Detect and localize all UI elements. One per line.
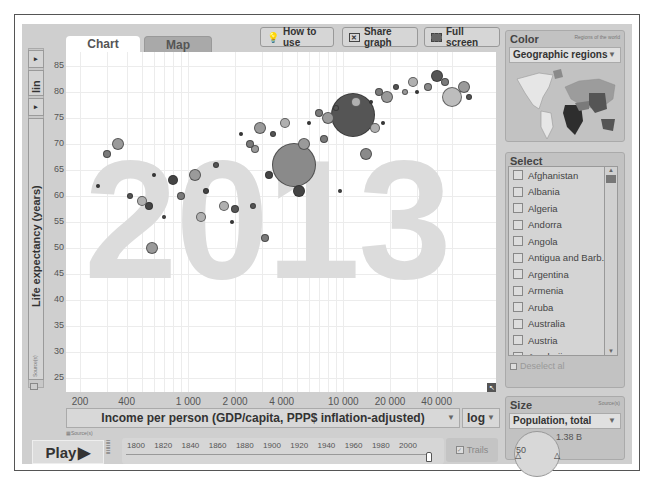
chevron-down-icon: ▼: [487, 409, 495, 427]
country-bubble[interactable]: [415, 90, 419, 94]
country-bubble[interactable]: [338, 189, 342, 193]
country-bubble[interactable]: [112, 138, 124, 150]
x-scale-label: log: [467, 411, 485, 425]
speed-slider-icon[interactable]: ≡≡≡: [106, 440, 118, 462]
country-list-item[interactable]: Azerbaijan: [509, 349, 611, 357]
country-bubble[interactable]: [272, 143, 316, 187]
country-bubble[interactable]: [307, 121, 311, 125]
full-screen-button[interactable]: Full screen: [424, 27, 500, 47]
size-max-handle[interactable]: △: [554, 451, 560, 460]
country-list-item[interactable]: Andorra: [509, 217, 611, 234]
country-name: Andorra: [528, 219, 562, 230]
country-list-item[interactable]: Argentina: [509, 266, 611, 283]
country-bubble[interactable]: [333, 105, 339, 111]
y-sources-link[interactable]: Source(s): [32, 355, 38, 377]
y-sources-table-icon[interactable]: [30, 383, 38, 390]
country-bubble[interactable]: [381, 121, 385, 125]
tab-map[interactable]: Map: [144, 36, 212, 53]
country-bubble[interactable]: [458, 81, 470, 93]
trails-checkbox[interactable]: ✓: [456, 446, 464, 454]
country-checkbox[interactable]: [513, 286, 523, 296]
country-bubble[interactable]: [230, 220, 234, 224]
deselect-all-button[interactable]: Deselect al: [510, 360, 620, 372]
country-bubble[interactable]: [189, 169, 201, 181]
fullscreen-icon: [431, 33, 442, 42]
scroll-thumb[interactable]: [606, 175, 616, 183]
timeline-handle[interactable]: [426, 452, 432, 462]
how-to-use-label: How to use: [283, 26, 327, 48]
y-tick-label: 75: [44, 112, 64, 122]
year-timeline-slider[interactable]: 1800182018401860188019001920194019601980…: [122, 438, 444, 464]
y-indicator-arrow-icon[interactable]: ▸: [28, 98, 44, 116]
country-list-item[interactable]: Armenia: [509, 283, 611, 300]
country-checkbox[interactable]: [513, 203, 523, 213]
country-bubble[interactable]: [466, 94, 472, 100]
country-bubble[interactable]: [137, 196, 147, 206]
country-bubble[interactable]: [231, 205, 239, 213]
size-sources-link[interactable]: Source(s): [598, 400, 620, 406]
country-bubble[interactable]: [213, 162, 219, 168]
country-bubble[interactable]: [96, 184, 100, 188]
x-axis-label: Income per person (GDP/capita, PPP$ infl…: [101, 411, 424, 425]
y-indicator-select[interactable]: Life expectancy (years) Source(s): [28, 118, 44, 380]
country-list[interactable]: AfghanistanAlbaniaAlgeriaAndorraAngolaAn…: [508, 166, 612, 356]
x-indicator-select[interactable]: Income per person (GDP/capita, PPP$ infl…: [66, 408, 460, 428]
country-bubble[interactable]: [146, 242, 158, 254]
zoom-arrow-icon[interactable]: ↖: [487, 383, 496, 392]
country-bubble[interactable]: [196, 212, 206, 222]
country-checkbox[interactable]: [513, 269, 523, 279]
country-bubble[interactable]: [408, 77, 418, 87]
country-checkbox[interactable]: [513, 302, 523, 312]
country-checkbox[interactable]: [513, 220, 523, 230]
country-checkbox[interactable]: [513, 319, 523, 329]
y-scale-select[interactable]: lin: [28, 70, 44, 96]
play-button[interactable]: Play ▶: [32, 440, 104, 464]
country-list-item[interactable]: Afghanistan: [509, 167, 611, 184]
bubble-chart-plot[interactable]: 2013: [66, 52, 496, 392]
size-max-label: 1.38 B: [556, 432, 582, 442]
country-bubble[interactable]: [203, 188, 209, 194]
country-bubble[interactable]: [261, 234, 269, 242]
country-bubble[interactable]: [265, 171, 273, 179]
size-indicator-select[interactable]: Population, total ▼: [509, 413, 621, 429]
tab-chart[interactable]: Chart: [66, 36, 140, 53]
country-list-item[interactable]: Albania: [509, 184, 611, 201]
country-checkbox[interactable]: [513, 236, 523, 246]
share-graph-button[interactable]: ✕ Share graph: [342, 27, 418, 47]
country-checkbox[interactable]: [513, 170, 523, 180]
x-scale-select[interactable]: log ▼: [462, 408, 500, 428]
country-bubble[interactable]: [351, 97, 361, 107]
country-list-item[interactable]: Antigua and Barb...: [509, 250, 611, 267]
x-sources-link[interactable]: ▦Source(s): [66, 430, 93, 436]
color-indicator-select[interactable]: Geographic regions ▼: [509, 47, 621, 63]
country-bubble[interactable]: [320, 135, 328, 143]
y-scale-arrow-icon[interactable]: ▸: [28, 50, 44, 68]
country-checkbox[interactable]: [513, 187, 523, 197]
country-bubble[interactable]: [393, 84, 399, 90]
y-tick-label: 30: [44, 346, 64, 356]
country-bubble[interactable]: [402, 89, 408, 95]
country-checkbox[interactable]: [513, 253, 523, 263]
country-bubble[interactable]: [441, 78, 449, 86]
country-checkbox[interactable]: [513, 352, 523, 356]
country-bubble[interactable]: [270, 131, 276, 137]
y-tick-label: 25: [44, 372, 64, 382]
country-list-item[interactable]: Algeria: [509, 200, 611, 217]
scroll-down-icon[interactable]: ▼: [605, 348, 617, 354]
country-bubble[interactable]: [424, 83, 432, 91]
country-checkbox[interactable]: [513, 335, 523, 345]
scroll-up-icon[interactable]: ▲: [605, 167, 617, 173]
country-list-item[interactable]: Austria: [509, 332, 611, 349]
country-bubble[interactable]: [127, 193, 133, 199]
country-list-item[interactable]: Aruba: [509, 299, 611, 316]
world-regions-map-icon[interactable]: [509, 65, 621, 143]
country-list-scrollbar[interactable]: ▲ ▼: [604, 166, 618, 356]
country-bubble[interactable]: [246, 140, 254, 148]
trails-toggle[interactable]: ✓ Trails: [446, 438, 498, 462]
country-list-item[interactable]: Australia: [509, 316, 611, 333]
country-bubble[interactable]: [381, 91, 393, 103]
timeline-year-label: 1860: [209, 441, 227, 450]
country-list-item[interactable]: Angola: [509, 233, 611, 250]
size-min-handle[interactable]: △: [515, 451, 521, 460]
how-to-use-button[interactable]: 💡 How to use: [260, 27, 334, 47]
